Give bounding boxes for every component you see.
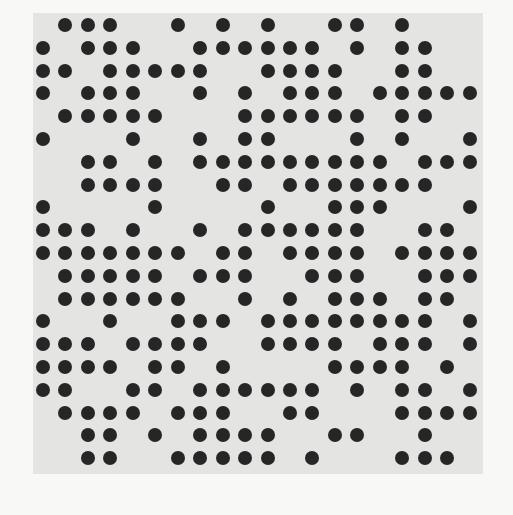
matrix-dot (418, 406, 432, 420)
matrix-dot (305, 269, 319, 283)
matrix-dot (418, 451, 432, 465)
matrix-dot (261, 451, 275, 465)
matrix-dot (216, 428, 230, 442)
matrix-dot (373, 155, 387, 169)
matrix-dot (328, 337, 342, 351)
matrix-dot (305, 337, 319, 351)
matrix-dot (58, 269, 72, 283)
matrix-dot (305, 383, 319, 397)
matrix-dot (350, 109, 364, 123)
matrix-dot (328, 200, 342, 214)
matrix-dot (148, 292, 162, 306)
matrix-dot (305, 155, 319, 169)
matrix-dot (395, 337, 409, 351)
matrix-dot (58, 109, 72, 123)
matrix-dot (148, 109, 162, 123)
matrix-dot (58, 337, 72, 351)
matrix-dot (81, 360, 95, 374)
matrix-dot (328, 292, 342, 306)
matrix-dot (261, 383, 275, 397)
matrix-dot (103, 451, 117, 465)
matrix-dot (126, 269, 140, 283)
matrix-dot (58, 64, 72, 78)
matrix-dot (216, 18, 230, 32)
matrix-dot (81, 269, 95, 283)
matrix-dot (58, 292, 72, 306)
matrix-dot (193, 428, 207, 442)
matrix-dot (58, 406, 72, 420)
matrix-dot (440, 223, 454, 237)
matrix-dot (350, 383, 364, 397)
matrix-dot (395, 178, 409, 192)
matrix-dot (418, 86, 432, 100)
matrix-dot (193, 223, 207, 237)
matrix-dot (418, 64, 432, 78)
matrix-dot (418, 109, 432, 123)
matrix-dot (418, 314, 432, 328)
matrix-dot (148, 269, 162, 283)
matrix-dot (463, 86, 477, 100)
matrix-dot (395, 383, 409, 397)
matrix-dot (103, 360, 117, 374)
matrix-dot (148, 178, 162, 192)
matrix-dot (216, 360, 230, 374)
matrix-dot (418, 383, 432, 397)
matrix-dot (126, 132, 140, 146)
matrix-dot (58, 18, 72, 32)
matrix-dot (103, 269, 117, 283)
matrix-dot (126, 109, 140, 123)
matrix-dot (216, 178, 230, 192)
matrix-dot (148, 155, 162, 169)
matrix-dot (193, 337, 207, 351)
matrix-dot (36, 246, 50, 260)
matrix-dot (350, 155, 364, 169)
matrix-dot (350, 292, 364, 306)
matrix-dot (171, 314, 185, 328)
matrix-dot (103, 109, 117, 123)
matrix-dot (171, 451, 185, 465)
matrix-dot (171, 246, 185, 260)
matrix-dot (193, 269, 207, 283)
matrix-dot (328, 18, 342, 32)
matrix-dot (350, 18, 364, 32)
matrix-dot (283, 383, 297, 397)
matrix-dot (305, 178, 319, 192)
matrix-dot (238, 178, 252, 192)
matrix-dot (328, 178, 342, 192)
matrix-dot (58, 223, 72, 237)
matrix-dot (350, 223, 364, 237)
matrix-dot (395, 406, 409, 420)
matrix-dot (81, 428, 95, 442)
matrix-dot (238, 86, 252, 100)
matrix-dot (395, 314, 409, 328)
matrix-dot (283, 86, 297, 100)
matrix-dot (395, 451, 409, 465)
matrix-dot (418, 269, 432, 283)
matrix-dot (305, 314, 319, 328)
matrix-dot (283, 314, 297, 328)
matrix-dot (261, 314, 275, 328)
matrix-dot (328, 223, 342, 237)
matrix-dot (36, 383, 50, 397)
matrix-dot (103, 246, 117, 260)
matrix-dot (328, 314, 342, 328)
matrix-dot (261, 428, 275, 442)
matrix-dot (463, 383, 477, 397)
matrix-dot (350, 132, 364, 146)
matrix-dot (440, 86, 454, 100)
matrix-dot (238, 132, 252, 146)
matrix-dot (373, 360, 387, 374)
matrix-dot (261, 200, 275, 214)
matrix-dot (283, 178, 297, 192)
matrix-dot (261, 18, 275, 32)
matrix-dot (305, 41, 319, 55)
matrix-dot (261, 109, 275, 123)
matrix-dot (36, 200, 50, 214)
matrix-dot (350, 41, 364, 55)
matrix-dot (328, 246, 342, 260)
matrix-dot (193, 155, 207, 169)
matrix-dot (261, 223, 275, 237)
matrix-dot (126, 41, 140, 55)
matrix-dot (238, 155, 252, 169)
matrix-dot (440, 155, 454, 169)
